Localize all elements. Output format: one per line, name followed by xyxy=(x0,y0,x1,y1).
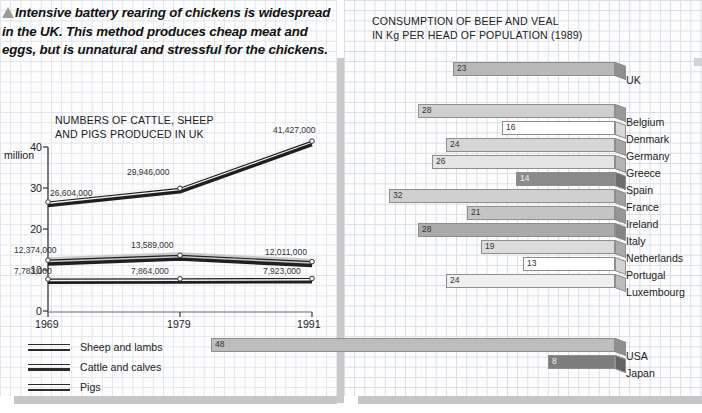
bar-row-luxembourg: 24 Luxembourg xyxy=(344,274,644,292)
bar-germany: 24 xyxy=(446,138,615,156)
bar-japan: 8 xyxy=(548,355,615,373)
bar-greece-value: 26 xyxy=(436,156,445,166)
bar-row-denmark: 16 Denmark xyxy=(344,121,644,139)
bar-belgium-face xyxy=(418,104,615,118)
bar-uk-value: 23 xyxy=(457,63,466,73)
bar-belgium: 28 xyxy=(418,104,615,122)
data-label-sheep-1969: 26,604,000 xyxy=(50,188,93,198)
bar-france-face xyxy=(389,189,615,203)
bar-chart-title: CONSUMPTION OF BEEF AND VEAL IN Kg PER H… xyxy=(372,14,583,42)
bar-italy: 28 xyxy=(418,223,615,241)
bar-row-ireland: 21 Ireland xyxy=(344,206,644,224)
legend-swatch-pigs xyxy=(28,384,70,391)
bar-france-side xyxy=(615,189,626,207)
bar-luxembourg-side xyxy=(615,274,626,292)
bar-germany-value: 24 xyxy=(450,139,459,149)
bar-belgium-value: 28 xyxy=(422,105,431,115)
triangle-up-icon xyxy=(2,7,14,18)
bar-row-italy: 28 Italy xyxy=(344,223,644,241)
x-tick-1991: 1991 xyxy=(297,318,321,330)
bar-greece: 26 xyxy=(432,155,615,173)
bar-greece-face xyxy=(432,155,615,169)
bar-ireland-value: 21 xyxy=(471,207,480,217)
bar-luxembourg: 24 xyxy=(446,274,615,292)
bar-usa: 48 xyxy=(211,338,615,356)
bar-row-spain: 14 Spain xyxy=(344,172,644,190)
bar-portugal-side xyxy=(615,257,626,275)
bar-spain-value: 14 xyxy=(520,173,529,183)
legend-item-pigs: Pigs xyxy=(28,377,162,397)
bar-row-usa: 48 USA xyxy=(0,338,702,356)
page-title: Intensive battery rearing of chickens is… xyxy=(2,4,334,60)
bar-row-portugal: 13 Portugal xyxy=(344,257,644,275)
bar-italy-face xyxy=(418,223,615,237)
bar-portugal-face xyxy=(523,257,615,271)
bar-ireland-face xyxy=(467,206,615,220)
bar-ireland: 21 xyxy=(467,206,615,224)
bar-germany-face xyxy=(446,138,615,152)
data-label-pigs-1969: 7,783,000 xyxy=(14,266,52,276)
bar-uk-face xyxy=(453,62,615,76)
bar-spain-side xyxy=(615,172,626,190)
bar-netherlands-side xyxy=(615,240,626,258)
bar-japan-value: 8 xyxy=(552,356,557,366)
bar-luxembourg-face xyxy=(446,274,615,288)
bar-belgium-side xyxy=(615,104,626,122)
bar-netherlands-face xyxy=(481,240,615,254)
data-label-pigs-1991: 7,923,000 xyxy=(263,266,301,276)
bar-usa-face xyxy=(211,338,615,352)
bar-label-japan: Japan xyxy=(626,367,655,379)
bar-france-value: 32 xyxy=(393,190,402,200)
bar-greece-side xyxy=(615,155,626,173)
bar-ireland-side xyxy=(615,206,626,224)
bar-japan-side xyxy=(615,355,626,373)
bar-uk: 23 xyxy=(453,62,615,80)
bar-spain-face xyxy=(516,172,615,186)
bar-germany-side xyxy=(615,138,626,156)
bar-denmark-face xyxy=(502,121,615,135)
data-label-cattle-1991: 12,011,000 xyxy=(265,247,307,257)
x-tick-1979: 1979 xyxy=(167,318,191,330)
bar-row-uk: 23 UK xyxy=(344,62,644,80)
data-label-cattle-1969: 12,374,000 xyxy=(14,245,57,255)
x-tick-1969: 1969 xyxy=(35,318,59,330)
bar-denmark-value: 16 xyxy=(506,122,515,132)
legend-label-pigs: Pigs xyxy=(80,381,101,393)
bar-row-france: 32 France xyxy=(344,189,644,207)
bar-luxembourg-value: 24 xyxy=(450,275,459,285)
bar-row-japan: 8 Japan xyxy=(0,355,702,373)
bar-netherlands: 19 xyxy=(481,240,615,258)
bar-usa-side xyxy=(615,338,626,356)
bar-row-netherlands: 19 Netherlands xyxy=(344,240,644,258)
caption-text: Intensive battery rearing of chickens is… xyxy=(2,5,330,57)
bar-denmark-side xyxy=(615,121,626,139)
bar-portugal-value: 13 xyxy=(527,258,536,268)
data-label-pigs-1979: 7,864,000 xyxy=(131,266,169,276)
bar-netherlands-value: 19 xyxy=(485,241,494,251)
bar-portugal: 13 xyxy=(523,257,615,275)
bar-label-luxembourg: Luxembourg xyxy=(626,286,685,298)
bar-uk-side xyxy=(615,62,626,80)
data-label-sheep-1979: 29,946,000 xyxy=(127,167,170,177)
data-label-sheep-1991: 41,427,000 xyxy=(273,125,316,135)
bar-denmark: 16 xyxy=(502,121,615,139)
bar-usa-value: 48 xyxy=(215,339,224,349)
data-label-cattle-1979: 13,589,000 xyxy=(131,240,174,250)
bar-france: 32 xyxy=(389,189,615,207)
bar-japan-face xyxy=(548,355,615,369)
bar-spain: 14 xyxy=(516,172,615,190)
bar-label-uk: UK xyxy=(626,74,641,86)
bar-row-germany: 24 Germany xyxy=(344,138,644,156)
bar-italy-value: 28 xyxy=(422,224,431,234)
bar-italy-side xyxy=(615,223,626,241)
bar-row-greece: 26 Greece xyxy=(344,155,644,173)
bar-row-belgium: 28 Belgium xyxy=(344,104,644,122)
